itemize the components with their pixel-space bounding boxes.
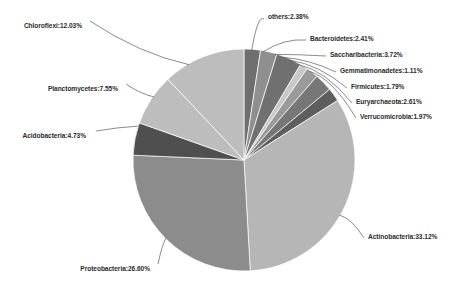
slice-label-chloroflexi: Chloroflexi:12.03%: [24, 23, 82, 30]
slice-label-acidobacteria: Acidobacteria:4.73%: [22, 133, 86, 140]
pie-chart-canvas: [0, 0, 475, 306]
slice-label-saccharibacteria: Saccharibacteria:3.72%: [330, 52, 403, 59]
slice-label-actinobacteria: Actinobacteria:33.12%: [368, 234, 437, 241]
slice-label-proteobacteria: Proteobacteria:26.60%: [80, 266, 150, 273]
slice-label-planctomycetes: Planctomycetes:7.55%: [48, 86, 118, 93]
leader-line: [90, 21, 189, 65]
slice-label-others: others:2.38%: [268, 14, 308, 21]
leader-line: [126, 84, 154, 97]
pie-slice-group: [133, 49, 355, 271]
leader-line: [96, 126, 139, 131]
leader-line: [158, 238, 166, 264]
slice-label-verrucomicrobia: Verrucomicrobia:1.97%: [360, 114, 432, 121]
slice-label-gemmatimonadetes: Gemmatimonadetes:1.11%: [340, 68, 422, 75]
leader-line: [252, 18, 264, 50]
leader-line: [339, 215, 364, 238]
slice-label-bacteroidetes: Bacteroidetes:2.41%: [310, 36, 374, 43]
pie-slice-proteobacteria: [133, 155, 250, 271]
leader-line: [263, 40, 306, 52]
slice-label-firmicutes: Firmicutes:1.79%: [351, 84, 404, 91]
slice-label-euryarchaeota: Euryarchaeota:2.61%: [356, 99, 422, 106]
pie-chart: Chloroflexi:12.03% Planctomycetes:7.55% …: [0, 0, 475, 306]
